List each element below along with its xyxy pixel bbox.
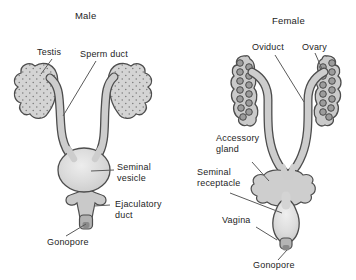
female-gonopore-opening [283, 245, 290, 251]
ejaculatory-duct-leader [94, 205, 110, 206]
vagina-label: Vagina [222, 215, 251, 226]
reproductive-system-diagram: Male Testis Sperm duct Seminal vesicle E… [0, 0, 356, 280]
male-gonopore-leader [66, 224, 86, 236]
female-gonopore-label: Gonopore [253, 260, 295, 271]
female-gonopore-leader [278, 250, 287, 260]
ejaculatory-duct-label: Ejaculatory duct [115, 199, 167, 221]
male-title: Male [75, 10, 96, 21]
oviduct-leader [275, 55, 304, 102]
testis-label: Testis [37, 47, 61, 58]
seminal-vesicle-label: Seminal vesicle [117, 162, 159, 184]
testis-right-shape [108, 63, 151, 118]
ovary-left-shape [231, 56, 258, 126]
sperm-duct-leader [63, 61, 96, 116]
sperm-duct-label: Sperm duct [80, 49, 128, 60]
testis-left-shape [14, 63, 57, 118]
ovary-right-shape [314, 56, 341, 126]
female-title: Female [272, 15, 305, 26]
oviduct-label: Oviduct [252, 42, 284, 53]
oviduct-shapes [252, 72, 324, 174]
ovary-label: Ovary [302, 42, 327, 53]
accessory-gland-label: Accessory gland [216, 133, 264, 155]
seminal-receptacle-label: Seminal receptacle [197, 167, 251, 189]
sperm-duct-shapes [50, 77, 114, 157]
male-gonopore-label: Gonopore [47, 237, 89, 248]
seminal-vesicle-shape [58, 148, 110, 192]
